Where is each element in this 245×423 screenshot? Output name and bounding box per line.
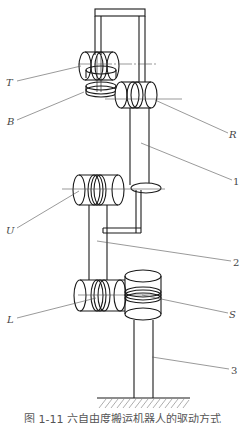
- label-joint-l: L: [6, 314, 14, 325]
- label-part-2: 2: [233, 257, 239, 268]
- robot-joint-diagram: T B R 1 U 2 L S 3: [0, 0, 245, 423]
- figure-caption: 图 1-11 六自由度搬运机器人的驱动方式: [0, 413, 245, 423]
- label-joint-b: B: [6, 116, 14, 127]
- label-part-1: 1: [233, 176, 239, 187]
- label-joint-r: R: [228, 129, 237, 140]
- leader-lines: [17, 66, 232, 369]
- ground-hatch: [97, 398, 190, 408]
- connecting-bracket: [103, 190, 141, 233]
- joint-r-cylinder: [105, 82, 182, 108]
- joint-l-cylinder: [74, 280, 160, 311]
- label-joint-s: S: [229, 309, 236, 320]
- link-2: [89, 205, 107, 280]
- label-joint-t: T: [6, 77, 14, 88]
- label-joint-u: U: [6, 225, 15, 236]
- joint-t-cylinder: [78, 52, 158, 80]
- link-3-base-pillar: [134, 320, 153, 398]
- link-1: [130, 108, 161, 193]
- label-part-3: 3: [231, 365, 237, 376]
